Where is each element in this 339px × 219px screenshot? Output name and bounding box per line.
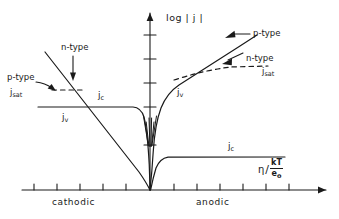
annotation-j-c-right-sub: c bbox=[231, 145, 235, 153]
annotation-j-sat-left-sub: sat bbox=[12, 91, 22, 99]
annotation-j-sat-right: jsat bbox=[262, 67, 274, 76]
annotation-n-type-left: n-type bbox=[61, 43, 88, 52]
tafel-plot-figure: log | j | η/ kT eo cathodic anodic n-typ… bbox=[0, 0, 339, 219]
leader-arrow-n-type-left bbox=[70, 56, 76, 81]
annotation-j-v-right: jv bbox=[177, 88, 183, 97]
x-axis-title: η/ kT eo bbox=[258, 160, 283, 180]
leader-arrow-p-type-right bbox=[225, 31, 250, 38]
annotation-j-v-left-sub: v bbox=[65, 116, 69, 124]
annotation-j-c-left: jc bbox=[98, 91, 104, 100]
x-axis-title-fraction: kT eo bbox=[270, 159, 283, 179]
x-axis-ticks-anodic bbox=[174, 184, 289, 190]
y-axis-arrowhead bbox=[147, 13, 154, 21]
x-region-label-anodic: anodic bbox=[196, 198, 230, 207]
x-axis-arrowhead bbox=[318, 187, 326, 194]
annotation-j-sat-left: jsat bbox=[10, 88, 22, 97]
annotation-j-v-left: jv bbox=[62, 113, 68, 122]
annotation-p-type-right: p-type bbox=[253, 29, 280, 38]
curve-cathodic-jc-tafel bbox=[45, 52, 150, 190]
plot-canvas bbox=[0, 0, 339, 219]
curve-anodic-jv-tafel bbox=[150, 35, 257, 190]
x-axis-title-e0: eo bbox=[270, 169, 283, 179]
x-axis-ticks-cathodic bbox=[34, 184, 126, 190]
y-axis-title: log | j | bbox=[166, 13, 203, 23]
annotation-n-type-right: n-type bbox=[246, 54, 273, 63]
curve-cathodic-jv-plateau bbox=[38, 107, 150, 190]
annotation-j-sat-right-sub: sat bbox=[264, 70, 274, 78]
annotation-p-type-left: p-type bbox=[7, 73, 34, 82]
annotation-j-c-right: jc bbox=[228, 142, 234, 151]
annotation-j-v-right-sub: v bbox=[180, 91, 184, 99]
x-axis-title-e0-sub: o bbox=[277, 172, 281, 180]
annotation-j-c-left-sub: c bbox=[101, 94, 105, 102]
leader-arrow-p-type-jsat-left bbox=[36, 82, 56, 91]
x-region-label-cathodic: cathodic bbox=[52, 198, 95, 207]
curve-anodic-jsat-dashed bbox=[174, 66, 268, 80]
x-axis-title-kt: kT bbox=[270, 159, 283, 169]
